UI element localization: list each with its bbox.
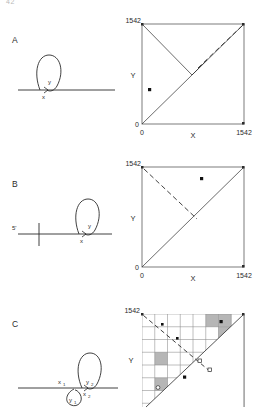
panel-b-label-five-prime: 5' [12, 225, 16, 231]
panel-c-point-filled [183, 376, 186, 379]
panel-b-ytick-max: 1542 [125, 160, 141, 167]
panel-b-data-point [200, 177, 203, 180]
panel-c-label-y2-sub: 2 [91, 382, 94, 387]
panel-b-label-y: y [88, 223, 91, 229]
panel-a-xtick-max: 1542 [236, 129, 252, 136]
panel-a-origin-tick: 0 [135, 121, 139, 128]
panel-a: A y x [0, 14, 259, 140]
panel-c-schematic: x 1 x 2 y 1 y 2 [0, 300, 132, 408]
panel-c-point-filled [161, 323, 164, 326]
panel-c-label-y2: y [86, 379, 89, 385]
panel-c-point-filled [176, 337, 179, 340]
panel-c-axis-y-label: Y [128, 356, 133, 365]
panel-b-axis-y-label: Y [130, 214, 135, 223]
page-number: 42 [6, 0, 15, 6]
panel-b-origin-tick: 0 [135, 264, 139, 271]
panel-c-point-circle [156, 386, 160, 390]
panel-b-xtick-max: 1542 [236, 272, 252, 279]
panel-c-label-x1: x [58, 379, 61, 385]
panel-b-xtick-min: 0 [140, 272, 144, 279]
panel-a-xtick-min: 0 [140, 129, 144, 136]
panel-b-plot: 1542 0 0 1542 Y X [128, 161, 259, 285]
panel-c-label-x2: x [83, 391, 86, 397]
panel-a-schematic: y x [0, 14, 130, 140]
panel-c-label-x1-sub: 1 [63, 382, 66, 387]
panel-a-ytick-max: 1542 [125, 17, 141, 24]
panel-c: C x 1 x 2 y 1 y 2 [0, 300, 259, 408]
panel-b-schematic: 5' y x [0, 155, 130, 285]
figure-page: 42 A y x [0, 0, 259, 408]
panel-b: B 5' y x 1542 0 [0, 155, 259, 285]
panel-a-plot: 1542 0 0 1542 Y X [128, 18, 259, 140]
panel-c-label-y1: y [69, 397, 72, 403]
panel-a-label-y: y [48, 79, 51, 85]
panel-a-data-point [148, 88, 151, 91]
panel-a-label-x: x [42, 94, 45, 100]
panel-a-axis-y-label: Y [130, 71, 135, 80]
panel-a-axis-x-label: X [190, 131, 195, 140]
panel-c-ytick-max: 1542 [124, 307, 140, 314]
panel-c-point-filled [220, 320, 223, 323]
panel-b-label-x: x [80, 238, 83, 244]
panel-c-label-x2-sub: 2 [88, 394, 91, 399]
panel-c-point-open [208, 368, 212, 372]
panel-b-axis-x-label: X [190, 274, 195, 283]
panel-c-label-y1-sub: 1 [74, 400, 77, 405]
panel-c-point-open [198, 359, 202, 363]
panel-c-plot: 1542 Y [128, 308, 259, 408]
